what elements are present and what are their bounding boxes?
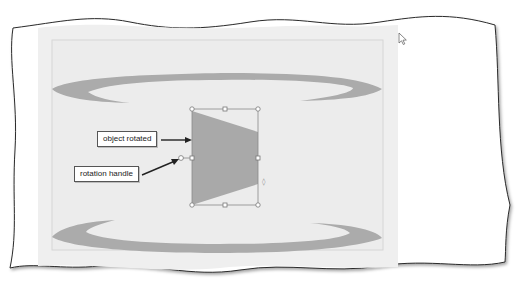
rotation-handle[interactable] — [179, 156, 184, 161]
object-rotated-label: object rotated — [103, 134, 151, 143]
handle-top-left[interactable] — [190, 107, 194, 111]
screenshot-figure: ◊ object rotated rotation handle — [0, 0, 520, 281]
object-rotated-callout: object rotated — [97, 131, 157, 147]
handle-bottom-right[interactable] — [256, 203, 260, 207]
rotation-handle-callout: rotation handle — [74, 166, 139, 182]
move-cursor-icon: ◊ — [262, 178, 266, 186]
handle-middle-left[interactable] — [190, 156, 194, 160]
handle-bottom-left[interactable] — [190, 203, 194, 207]
handle-top-middle[interactable] — [223, 107, 227, 111]
handle-bottom-middle[interactable] — [223, 203, 227, 207]
torn-paper-frame: ◊ — [0, 0, 520, 281]
handle-middle-right[interactable] — [256, 156, 260, 160]
rotation-handle-label: rotation handle — [80, 169, 133, 178]
handle-top-right[interactable] — [256, 107, 260, 111]
